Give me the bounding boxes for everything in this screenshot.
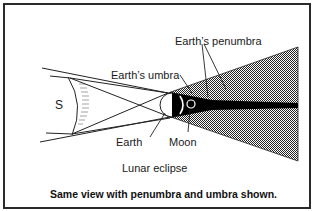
diagram-title: Lunar eclipse [122, 163, 187, 174]
earth-label: Earth [116, 137, 142, 148]
earth-penumbra-label: Earth’s penumbra [175, 36, 262, 47]
earth-umbra-label: Earth’s umbra [111, 70, 179, 81]
sun-label: S [55, 99, 63, 111]
moon-label: Moon [169, 137, 197, 148]
moon-body [187, 100, 195, 108]
lunar-eclipse-diagram [0, 0, 314, 211]
sun-body [68, 77, 78, 135]
sun-hatching [78, 84, 89, 124]
diagram-caption: Same view with penumbra and umbra shown. [50, 189, 277, 200]
